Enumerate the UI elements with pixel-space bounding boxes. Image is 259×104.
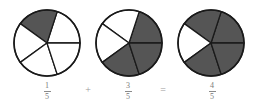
denominator: 5 — [39, 93, 55, 101]
denominator: 5 — [120, 93, 136, 101]
plus-sign: + — [82, 85, 94, 95]
fraction-four-fifths: 4 5 — [204, 82, 220, 101]
numerator: 3 — [120, 82, 136, 90]
numerator: 1 — [39, 82, 55, 90]
equals-sign: = — [157, 85, 169, 95]
fraction-one-fifth: 1 5 — [39, 82, 55, 101]
fraction-three-fifths: 3 5 — [120, 82, 136, 101]
numerator: 4 — [204, 82, 220, 90]
pie-four-fifths — [178, 10, 244, 76]
denominator: 5 — [204, 93, 220, 101]
pie-three-fifths — [96, 10, 162, 76]
pie-one-fifth — [14, 10, 80, 76]
